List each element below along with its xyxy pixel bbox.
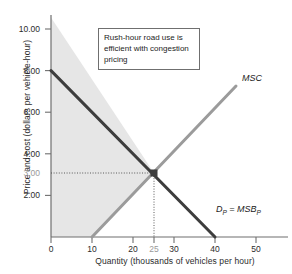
- demand-curve-label: DP = MSBP: [216, 204, 261, 216]
- x-tick-label-50: 50: [243, 244, 269, 254]
- demand-label-sub-p2: P: [257, 209, 261, 216]
- equilibrium-point-marker: [151, 170, 158, 177]
- y-tick-marks: [45, 29, 51, 195]
- y-tick-label-6: 6.00: [6, 107, 40, 117]
- annotation-callout-box: Rush-hour road use is efficient with con…: [98, 28, 200, 70]
- y-tick-label-3: 3.00: [6, 168, 40, 178]
- x-tick-label-10: 10: [79, 244, 105, 254]
- x-tick-label-0: 0: [38, 244, 64, 254]
- x-tick-label-40: 40: [202, 244, 228, 254]
- x-tick-label-30: 30: [161, 244, 187, 254]
- y-tick-label-4: 4.00: [6, 149, 40, 159]
- y-tick-label-10: 10.00: [6, 24, 40, 34]
- economics-chart-figure: Price and cost (dollars per vehicle-hour…: [0, 0, 292, 274]
- y-tick-label-2: 2.00: [6, 190, 40, 200]
- x-axis-title: Quantity (thousands of vehicles per hour…: [60, 256, 290, 266]
- demand-label-equals-msb: = MSB: [227, 204, 257, 214]
- x-tick-marks: [51, 237, 256, 243]
- y-tick-label-8: 8.00: [6, 66, 40, 76]
- msc-curve-label: MSC: [242, 73, 262, 83]
